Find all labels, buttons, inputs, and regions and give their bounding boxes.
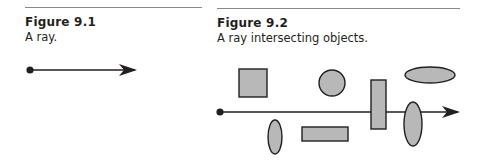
small-ellipse-object bbox=[268, 120, 282, 154]
circle-object bbox=[319, 70, 345, 96]
vertical-rect-object bbox=[371, 80, 386, 129]
horizontal-rect-object bbox=[302, 127, 348, 141]
ray-origin-dot bbox=[26, 66, 33, 73]
tall-ellipse-object bbox=[404, 102, 422, 146]
ray-origin-dot bbox=[216, 108, 223, 115]
wide-ellipse-object bbox=[405, 67, 455, 83]
figure-2-diagram bbox=[216, 67, 458, 154]
figures-canvas bbox=[0, 0, 479, 164]
square-object bbox=[239, 69, 267, 97]
figure-1-diagram bbox=[26, 66, 135, 73]
